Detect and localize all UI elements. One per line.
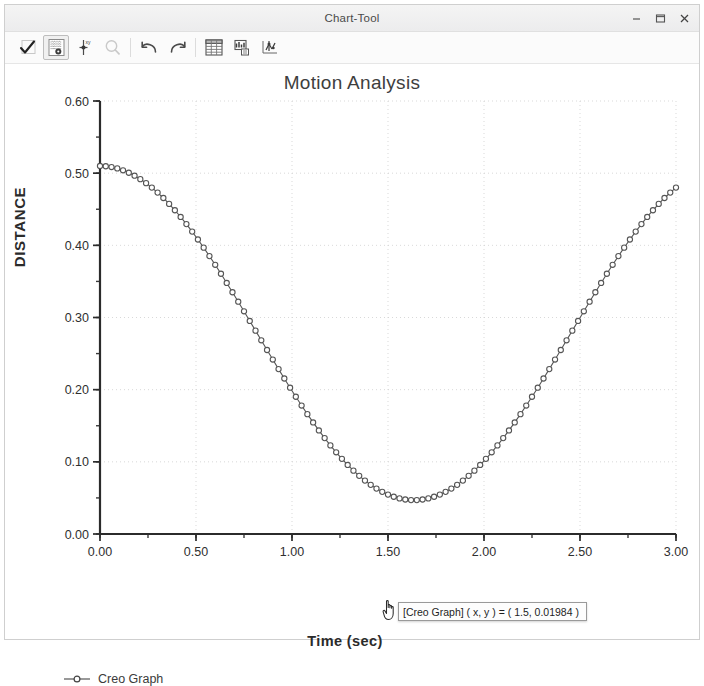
data-point-marker[interactable] <box>126 170 131 175</box>
data-point-marker[interactable] <box>627 237 632 242</box>
data-point-marker[interactable] <box>593 290 598 295</box>
data-point-marker[interactable] <box>668 190 673 195</box>
minimize-button[interactable] <box>630 12 643 25</box>
data-point-marker[interactable] <box>622 245 627 250</box>
data-point-marker[interactable] <box>529 394 534 399</box>
data-point-marker[interactable] <box>501 435 506 440</box>
data-point-marker[interactable] <box>472 468 477 473</box>
data-point-marker[interactable] <box>167 201 172 206</box>
data-point-marker[interactable] <box>213 262 218 267</box>
data-point-marker[interactable] <box>259 338 264 343</box>
data-point-marker[interactable] <box>581 309 586 314</box>
close-button[interactable] <box>678 12 691 25</box>
accept-check-button[interactable] <box>15 35 41 60</box>
zoom-button[interactable] <box>99 35 125 60</box>
data-point-marker[interactable] <box>489 450 494 455</box>
data-point-marker[interactable] <box>97 163 102 168</box>
data-point-marker[interactable] <box>305 412 310 417</box>
redo-button[interactable] <box>164 35 190 60</box>
data-point-marker[interactable] <box>351 468 356 473</box>
data-point-marker[interactable] <box>190 229 195 234</box>
data-point-marker[interactable] <box>610 262 615 267</box>
data-point-marker[interactable] <box>650 208 655 213</box>
data-point-marker[interactable] <box>236 299 241 304</box>
data-point-marker[interactable] <box>587 299 592 304</box>
data-point-marker[interactable] <box>518 412 523 417</box>
data-point-marker[interactable] <box>115 166 120 171</box>
data-point-marker[interactable] <box>403 497 408 502</box>
data-point-marker[interactable] <box>184 222 189 227</box>
data-point-marker[interactable] <box>455 482 460 487</box>
data-point-marker[interactable] <box>662 195 667 200</box>
data-point-marker[interactable] <box>241 309 246 314</box>
data-point-marker[interactable] <box>512 420 517 425</box>
data-point-marker[interactable] <box>385 492 390 497</box>
data-point-marker[interactable] <box>155 190 160 195</box>
data-point-marker[interactable] <box>253 328 258 333</box>
data-point-marker[interactable] <box>431 494 436 499</box>
data-point-marker[interactable] <box>541 376 546 381</box>
data-point-marker[interactable] <box>362 478 367 483</box>
data-point-marker[interactable] <box>172 208 177 213</box>
data-point-marker[interactable] <box>443 489 448 494</box>
data-point-marker[interactable] <box>552 357 557 362</box>
data-point-marker[interactable] <box>564 338 569 343</box>
export-data-button[interactable] <box>257 35 283 60</box>
data-point-marker[interactable] <box>299 403 304 408</box>
data-point-marker[interactable] <box>195 237 200 242</box>
data-point-marker[interactable] <box>575 318 580 323</box>
data-point-marker[interactable] <box>218 271 223 276</box>
data-point-marker[interactable] <box>143 181 148 186</box>
data-point-marker[interactable] <box>109 164 114 169</box>
data-point-marker[interactable] <box>201 245 206 250</box>
data-point-marker[interactable] <box>345 462 350 467</box>
data-point-marker[interactable] <box>449 486 454 491</box>
data-point-marker[interactable] <box>408 497 413 502</box>
data-point-marker[interactable] <box>426 496 431 501</box>
data-point-marker[interactable] <box>397 496 402 501</box>
add-marker-button[interactable]: xy <box>71 35 97 60</box>
data-point-marker[interactable] <box>420 497 425 502</box>
data-point-marker[interactable] <box>506 428 511 433</box>
chart-format-button[interactable] <box>229 35 255 60</box>
data-point-marker[interactable] <box>604 271 609 276</box>
data-point-marker[interactable] <box>270 357 275 362</box>
data-point-marker[interactable] <box>311 420 316 425</box>
data-point-marker[interactable] <box>368 482 373 487</box>
data-point-marker[interactable] <box>535 385 540 390</box>
data-point-marker[interactable] <box>437 492 442 497</box>
chart-canvas[interactable]: Motion Analysis 0.000.100.200.300.400.50… <box>5 64 699 639</box>
data-point-marker[interactable] <box>357 473 362 478</box>
graph-display-settings-button[interactable] <box>43 35 69 60</box>
data-point-marker[interactable] <box>230 290 235 295</box>
data-point-marker[interactable] <box>120 168 125 173</box>
show-table-button[interactable] <box>201 35 227 60</box>
data-point-marker[interactable] <box>247 318 252 323</box>
data-point-marker[interactable] <box>178 214 183 219</box>
data-point-marker[interactable] <box>524 403 529 408</box>
data-point-marker[interactable] <box>558 347 563 352</box>
data-point-marker[interactable] <box>138 177 143 182</box>
data-point-marker[interactable] <box>316 428 321 433</box>
data-point-marker[interactable] <box>570 328 575 333</box>
data-point-marker[interactable] <box>322 435 327 440</box>
data-point-marker[interactable] <box>282 376 287 381</box>
data-point-marker[interactable] <box>380 489 385 494</box>
data-point-marker[interactable] <box>276 367 281 372</box>
data-point-marker[interactable] <box>207 253 212 258</box>
data-point-marker[interactable] <box>287 385 292 390</box>
data-point-marker[interactable] <box>547 367 552 372</box>
undo-button[interactable] <box>136 35 162 60</box>
data-point-marker[interactable] <box>339 456 344 461</box>
data-point-marker[interactable] <box>495 443 500 448</box>
data-point-marker[interactable] <box>466 473 471 478</box>
data-point-marker[interactable] <box>264 347 269 352</box>
data-point-marker[interactable] <box>616 253 621 258</box>
data-point-marker[interactable] <box>374 486 379 491</box>
data-point-marker[interactable] <box>478 462 483 467</box>
data-point-marker[interactable] <box>639 222 644 227</box>
data-point-marker[interactable] <box>483 456 488 461</box>
maximize-button[interactable] <box>654 12 667 25</box>
data-point-marker[interactable] <box>599 280 604 285</box>
data-point-marker[interactable] <box>414 497 419 502</box>
